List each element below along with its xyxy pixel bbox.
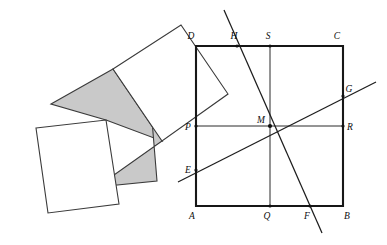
label-B: B bbox=[344, 211, 350, 221]
label-M: M bbox=[256, 115, 266, 125]
label-Q: Q bbox=[264, 211, 271, 221]
label-G: G bbox=[346, 84, 353, 94]
label-D: D bbox=[187, 31, 195, 41]
label-F: F bbox=[303, 211, 310, 221]
label-A: A bbox=[188, 211, 195, 221]
label-P: P bbox=[184, 122, 191, 132]
label-H: H bbox=[230, 31, 239, 41]
label-R: R bbox=[346, 122, 353, 132]
lower-white-square bbox=[36, 120, 119, 213]
label-C: C bbox=[334, 31, 341, 41]
point-dot-S bbox=[268, 44, 271, 47]
point-dot-H bbox=[235, 44, 238, 47]
point-dot-E bbox=[194, 168, 197, 171]
label-E: E bbox=[184, 165, 191, 175]
figure-canvas: D H S C G P M R E A Q F B bbox=[0, 0, 387, 245]
line-HF bbox=[224, 10, 322, 233]
point-dot-Q bbox=[268, 204, 271, 207]
point-dot-R bbox=[341, 124, 344, 127]
point-dot-F bbox=[308, 204, 311, 207]
point-dot-P bbox=[194, 124, 197, 127]
point-dot-G bbox=[341, 94, 344, 97]
geometry-figure: D H S C G P M R E A Q F B bbox=[0, 0, 387, 245]
square-with-cevians-panel: D H S C G P M R E A Q F B bbox=[178, 10, 376, 233]
label-S: S bbox=[266, 31, 271, 41]
point-dot-M bbox=[268, 124, 272, 128]
tilted-squares-panel bbox=[36, 25, 228, 213]
